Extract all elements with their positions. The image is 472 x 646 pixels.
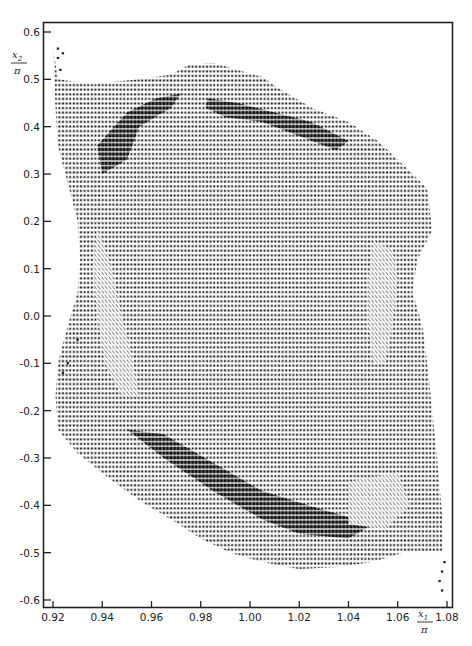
y-tick-label: -0.1 [20, 357, 41, 369]
y-tick-label: 0.6 [23, 26, 40, 38]
y-tick-label: -0.6 [20, 594, 41, 606]
x-tick-label: 1.06 [386, 611, 410, 623]
y-tick-label: -0.4 [20, 499, 41, 511]
x-axis-label: x1 π [417, 608, 433, 635]
outlier-marker [441, 571, 443, 573]
x-tick-label: 0.94 [91, 611, 115, 623]
y-tick-label: -0.5 [20, 547, 41, 559]
svg-text:x1: x1 [418, 608, 428, 622]
y-label-sub: 2 [17, 55, 23, 63]
data-layer [53, 46, 446, 591]
y-tick-label: 0.0 [23, 310, 40, 322]
y-tick-label: 0.5 [23, 73, 40, 85]
y-label-den: π [13, 65, 21, 76]
x-tick-label: 0.92 [41, 611, 64, 623]
svg-text:x2: x2 [12, 49, 23, 63]
y-tick-label: -0.2 [20, 405, 41, 417]
outlier-marker [62, 52, 64, 54]
x-tick-label: 0.96 [140, 611, 164, 623]
y-tick-label: -0.3 [20, 452, 41, 464]
y-axis-label: x2 π [11, 49, 27, 76]
y-tick-label: 0.2 [23, 215, 40, 227]
outlier-marker [67, 362, 69, 364]
character-plot: 0.60.50.40.30.20.10.0-0.1-0.2-0.3-0.4-0.… [0, 0, 472, 646]
y-tick-label: 0.3 [23, 168, 40, 180]
x-label-sub: 1 [424, 614, 428, 622]
x-axis: 0.920.940.960.981.001.021.041.061.08 [41, 601, 458, 623]
x-tick-label: 1.02 [288, 611, 311, 623]
outlier-marker [59, 69, 61, 71]
outlier-marker [57, 57, 59, 59]
x-tick-label: 0.98 [189, 611, 212, 623]
outlier-marker [438, 580, 440, 582]
x-label-den: π [420, 624, 428, 635]
x-tick-label: 1.08 [435, 611, 458, 623]
x-tick-label: 1.04 [337, 611, 361, 623]
outlier-marker [62, 372, 64, 374]
outlier-marker [443, 561, 445, 563]
x-tick-label: 1.00 [238, 611, 261, 623]
outlier-marker [441, 589, 443, 591]
outlier-marker [76, 339, 78, 341]
y-axis: 0.60.50.40.30.20.10.0-0.1-0.2-0.3-0.4-0.… [20, 26, 52, 606]
y-tick-label: 0.4 [23, 121, 40, 133]
y-tick-label: 0.1 [23, 263, 40, 275]
outlier-marker [57, 48, 59, 50]
